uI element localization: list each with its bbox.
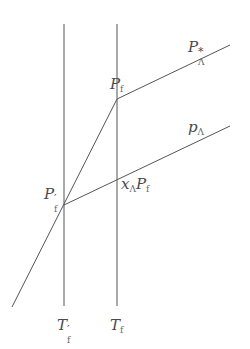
label-base: p	[188, 118, 198, 136]
label-p-f: Pf	[110, 77, 123, 94]
label-subscript: Λ	[198, 58, 205, 67]
label-subscript: f	[67, 336, 70, 345]
label-t-f: Tf	[110, 318, 123, 335]
label-base: T	[110, 316, 120, 334]
label-prime: ′	[67, 324, 70, 335]
label-subscript: Λ	[198, 127, 205, 137]
label-x-lambda-p-f: xΛPf	[121, 177, 149, 194]
label-subscript: f	[120, 325, 123, 335]
label-subscript: f	[146, 184, 149, 194]
label-base: P	[188, 38, 198, 56]
label-superscript: *	[198, 46, 204, 57]
label-base: P	[110, 75, 120, 93]
label-subscript: f	[54, 205, 57, 214]
label-base: P	[44, 185, 54, 203]
label-t-f-prime: T′f	[57, 318, 75, 333]
label-p-lambda: pΛ	[188, 120, 204, 137]
label-base: T	[57, 316, 67, 334]
label-base: P	[136, 175, 146, 193]
p-star-lambda-line	[117, 45, 230, 99]
label-prime: ′	[54, 193, 57, 204]
label-p-star-lambda: P*Λ	[188, 40, 206, 55]
label-p-f-prime: P′f	[44, 187, 62, 202]
label-subscript: f	[120, 84, 123, 94]
